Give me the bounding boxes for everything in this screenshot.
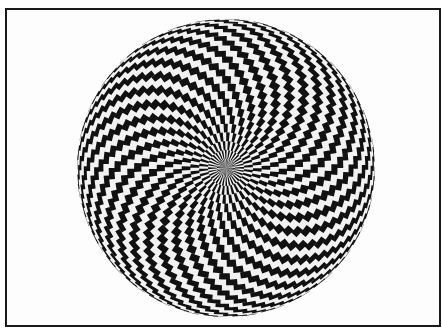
- checkerboard-sphere: [0, 0, 442, 328]
